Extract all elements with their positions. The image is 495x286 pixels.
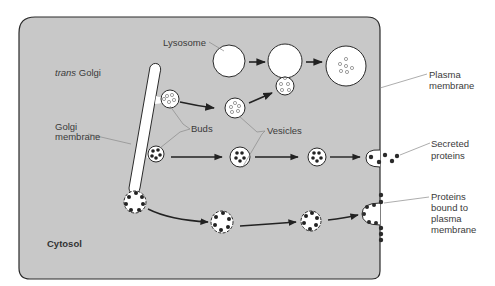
label-trans-golgi: trans Golgi	[55, 67, 101, 78]
label-bound-2: bound to	[431, 202, 468, 213]
label-plasma-membrane-2: membrane	[429, 80, 474, 91]
label-golgi-membrane-2: membrane	[55, 131, 100, 142]
label-lysosome: Lysosome	[163, 37, 206, 48]
label-secreted-2: proteins	[431, 150, 465, 161]
vesicle-lysosomal	[225, 98, 245, 118]
label-trans-italic: trans	[55, 67, 76, 78]
label-plasma-membrane-1: Plasma	[429, 69, 461, 80]
bud-lysosomal	[161, 90, 179, 108]
label-bound-3: plasma	[431, 213, 462, 224]
label-golgi: Golgi	[76, 67, 101, 78]
label-bound-1: Proteins	[431, 191, 466, 202]
label-bound-4: membrane	[431, 224, 476, 235]
vesicle-secretory-1	[230, 147, 250, 167]
label-cytosol: Cytosol	[47, 238, 82, 249]
label-buds: Buds	[191, 123, 213, 134]
vesicle-secretory-2	[308, 148, 326, 166]
label-vesicles: Vesicles	[267, 125, 302, 136]
label-secreted-1: Secreted	[431, 138, 469, 149]
lysosome-2	[268, 44, 302, 78]
lysosome-3	[326, 46, 366, 86]
lysosome-1	[213, 45, 245, 77]
